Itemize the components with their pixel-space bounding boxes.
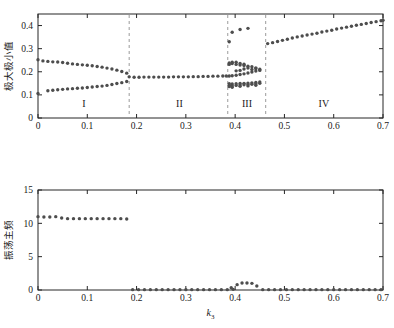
data-point [110, 67, 113, 70]
data-point [238, 73, 241, 76]
data-point [60, 216, 63, 219]
data-point [143, 288, 146, 291]
data-point [131, 288, 134, 291]
data-point [119, 217, 122, 220]
x-axis-title: k3 [207, 307, 215, 321]
region-annotation: III [242, 98, 252, 109]
data-point [369, 21, 372, 24]
x-tick-label: 0.4 [229, 121, 241, 131]
data-point [230, 61, 233, 64]
y-axis-title: 极大极小值 [3, 41, 14, 91]
y-axis-title: 振荡主频 [3, 220, 14, 260]
data-point [228, 40, 231, 43]
x-tick-label: 0.3 [180, 293, 192, 303]
data-point [326, 288, 329, 291]
data-point [310, 32, 313, 35]
data-point [250, 65, 253, 68]
data-point [296, 35, 299, 38]
data-point [187, 75, 190, 78]
bifurcation-figure: 00.10.20.30.40.50.60.700.10.20.30.4IIIII… [0, 0, 394, 328]
data-point [242, 62, 245, 65]
y-tick-label: 0.4 [21, 21, 33, 31]
data-point [234, 61, 237, 64]
data-point [308, 288, 311, 291]
y-tick-label: 10 [24, 219, 34, 229]
x-tick-label: 0.6 [328, 293, 340, 303]
data-point [255, 284, 258, 287]
data-point [291, 288, 294, 291]
region-annotation: I [82, 98, 85, 109]
series-region-III-chaotic-band [228, 27, 262, 89]
data-point [95, 65, 98, 68]
data-point [71, 62, 74, 65]
data-point [61, 61, 64, 64]
data-point [286, 37, 289, 40]
data-point [162, 75, 165, 78]
y-tick-label: 15 [24, 185, 34, 195]
data-point [125, 80, 128, 83]
data-point [72, 217, 75, 220]
x-tick-label: 0.1 [81, 293, 93, 303]
y-tick-label: 0.2 [21, 67, 33, 77]
series-region-IV-rising-branch [266, 19, 385, 46]
data-point [166, 288, 169, 291]
data-point [178, 288, 181, 291]
data-point [216, 74, 219, 77]
data-point [230, 86, 233, 89]
data-point [113, 217, 116, 220]
data-point [86, 86, 89, 89]
data-point [238, 85, 241, 88]
data-point [66, 62, 69, 65]
x-tick-label: 0.5 [278, 121, 290, 131]
data-point [238, 62, 241, 65]
data-point [350, 25, 353, 28]
data-point [100, 65, 103, 68]
data-point [105, 66, 108, 69]
data-point [230, 31, 233, 34]
x-tick-label: 0.3 [180, 121, 192, 131]
data-point [196, 75, 199, 78]
data-point [226, 288, 229, 291]
data-point [90, 217, 93, 220]
data-point [360, 23, 363, 26]
data-point [76, 63, 79, 66]
data-point [172, 75, 175, 78]
data-point [305, 33, 308, 36]
data-point [46, 60, 49, 63]
data-point [250, 282, 253, 285]
plot-frame [38, 190, 383, 290]
data-point [266, 42, 269, 45]
data-point [254, 66, 257, 69]
y-tick-label: 0 [28, 113, 33, 123]
data-point [246, 84, 249, 87]
data-point [285, 288, 288, 291]
data-point [100, 84, 103, 87]
x-tick-label: 0.6 [328, 121, 340, 131]
data-point [142, 75, 145, 78]
y-tick-label: 0.1 [21, 90, 33, 100]
data-point [242, 83, 245, 86]
data-point [115, 68, 118, 71]
data-point [137, 288, 140, 291]
data-point [36, 215, 39, 218]
data-point [105, 84, 108, 87]
x-tick-label: 0.7 [377, 293, 389, 303]
data-point [344, 288, 347, 291]
data-point [56, 88, 59, 91]
data-point [246, 71, 249, 74]
data-point [291, 36, 294, 39]
data-point [42, 215, 45, 218]
data-point [330, 28, 333, 31]
data-point [345, 25, 348, 28]
data-point [206, 75, 209, 78]
data-point [71, 87, 74, 90]
data-point [107, 217, 110, 220]
data-point [221, 74, 224, 77]
data-point [120, 81, 123, 84]
data-point [379, 288, 382, 291]
data-point [41, 59, 44, 62]
data-point [147, 75, 150, 78]
figure-container: 00.10.20.30.40.50.60.700.10.20.30.4IIIII… [0, 0, 394, 328]
data-point [36, 92, 39, 95]
data-point [110, 83, 113, 86]
